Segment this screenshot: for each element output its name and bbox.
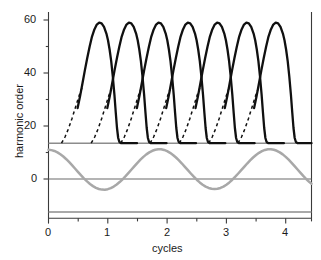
x-tick-label-1: 1: [104, 227, 110, 238]
x-tick-label-2: 2: [164, 227, 170, 238]
y-axis-title: harmonic order: [14, 84, 25, 158]
x-axis-ticks: [49, 218, 312, 223]
x-tick-label-0: 0: [45, 227, 51, 238]
harmonic-dashed-rising-branches: [62, 88, 259, 143]
y-tick-label-20: 20: [24, 120, 36, 131]
harmonic-burst-series: [78, 23, 312, 144]
plot-svg: [0, 0, 321, 260]
x-axis-title: cycles: [152, 243, 183, 254]
y-tick-label-0: 0: [31, 173, 37, 184]
harmonic-burst-7: [254, 23, 311, 144]
reference-lines: [49, 143, 312, 212]
x-tick-label-3: 3: [223, 227, 229, 238]
y-tick-label-60: 60: [24, 14, 36, 25]
y-tick-label-40: 40: [24, 67, 36, 78]
x-tick-label-4: 4: [282, 227, 288, 238]
harmonic-burst-1: [78, 23, 137, 144]
driving-laser-field-series: [49, 149, 312, 189]
figure-canvas: 60 40 20 0 0 1 2 3 4 harmonic order cycl…: [0, 0, 321, 260]
y-axis-ticks: [44, 20, 49, 179]
driving-field-curve: [49, 149, 312, 189]
